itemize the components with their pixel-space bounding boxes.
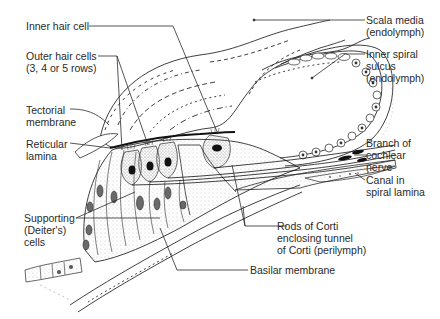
bottom-cells — [25, 258, 82, 300]
label-rods-of-corti: Rods of Corti enclosing tunnel of Corti … — [277, 220, 366, 256]
label-cochlear-nerve-branch: Branch of cochlear nerve — [366, 137, 411, 173]
label-scala-media: Scala media (endolymph) — [366, 14, 424, 38]
organ-of-corti-diagram: Inner hair cell Outer hair cells (3, 4 o… — [0, 0, 440, 319]
label-basilar-membrane: Basilar membrane — [250, 264, 335, 276]
label-supporting-cells: Supporting (Deiter's) cells — [24, 212, 75, 248]
label-inner-spiral-sulcus: Inner spiral sulcus (endolymph) — [366, 48, 424, 84]
label-outer-hair-cells: Outer hair cells (3, 4 or 5 rows) — [26, 50, 97, 74]
spiral-limbus — [255, 38, 370, 82]
label-canal-spiral-lamina: Canal in spiral lamina — [366, 174, 425, 198]
label-inner-hair-cell: Inner hair cell — [26, 20, 89, 32]
label-tectorial-membrane: Tectorial membrane — [26, 104, 76, 128]
tectorial-membrane-shape — [100, 20, 345, 148]
label-reticular-lamina: Reticular lamina — [26, 138, 67, 162]
